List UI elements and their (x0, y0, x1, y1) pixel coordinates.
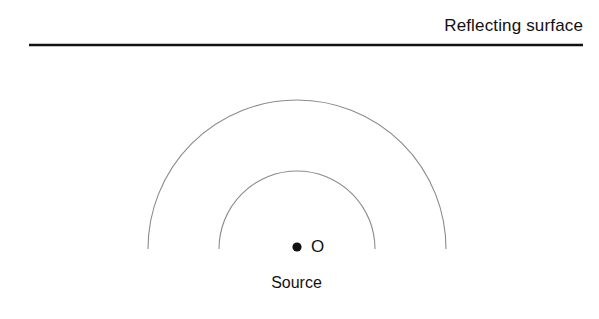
origin-point-label: O (311, 238, 324, 255)
source-caption-text: Source (271, 274, 322, 291)
figure-root: Reflecting surface O Source (0, 0, 599, 319)
diagram-canvas (0, 0, 599, 319)
source-point-dot (292, 242, 301, 251)
reflecting-surface-label: Reflecting surface (444, 17, 583, 34)
source-caption-label: Source (0, 275, 599, 291)
figure-background (0, 0, 599, 319)
